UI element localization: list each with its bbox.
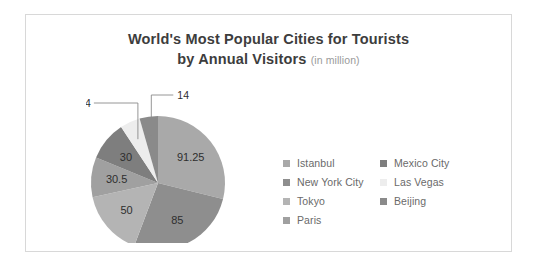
legend-item-label: New York City	[297, 176, 364, 188]
legend-swatch-icon	[283, 217, 290, 224]
page-title: World's Most Popular Cities for Tourists	[26, 29, 511, 49]
legend-swatch-icon	[283, 198, 290, 205]
legend-item-label: Mexico City	[394, 157, 449, 169]
legend-item-label: Beijing	[394, 195, 426, 207]
pie-data-label: 50	[120, 204, 132, 216]
legend-item[interactable]: Paris	[283, 211, 380, 229]
legend-item[interactable]: Tokyo	[283, 192, 380, 210]
pie-data-label: 91.25	[177, 151, 205, 163]
chart-title-block: World's Most Popular Cities for Tourists…	[26, 29, 511, 70]
legend-swatch-icon	[283, 160, 290, 167]
legend-item[interactable]: Mexico City	[380, 154, 477, 172]
pie-data-label: 30	[120, 151, 132, 163]
legend-item[interactable]: Istanbul	[283, 154, 380, 172]
pie-data-label: 85	[171, 214, 183, 226]
legend-column-left: IstanbulNew York CityTokyoParis	[283, 154, 380, 230]
legend-swatch-icon	[380, 179, 387, 186]
legend-item-label: Las Vegas	[394, 176, 444, 188]
pie-chart: 91.25855030.53015.3414	[86, 83, 296, 243]
legend-item[interactable]: New York City	[283, 173, 380, 191]
legend-column-right: Mexico CityLas VegasBeijing	[380, 154, 477, 230]
pie-data-label-outer: 14	[177, 89, 189, 101]
legend-item-label: Tokyo	[297, 195, 325, 207]
pie-data-label: 30.5	[106, 173, 127, 185]
chart-legend: IstanbulNew York CityTokyoParis Mexico C…	[283, 154, 498, 230]
legend-item-label: Paris	[297, 214, 321, 226]
pie-chart-svg: 91.25855030.53015.3414	[86, 83, 296, 243]
legend-swatch-icon	[380, 160, 387, 167]
legend-swatch-icon	[380, 198, 387, 205]
chart-subtitle: by Annual Visitors (in million)	[26, 49, 511, 70]
legend-item[interactable]: Las Vegas	[380, 173, 477, 191]
legend-item[interactable]: Beijing	[380, 192, 477, 210]
chart-subtitle-text: by Annual Visitors	[177, 51, 306, 67]
legend-swatch-icon	[283, 179, 290, 186]
chart-card: World's Most Popular Cities for Tourists…	[25, 14, 512, 252]
pie-data-label-outer: 15.34	[86, 97, 91, 109]
legend-item-label: Istanbul	[297, 157, 335, 169]
chart-unit-note: (in million)	[311, 54, 360, 66]
